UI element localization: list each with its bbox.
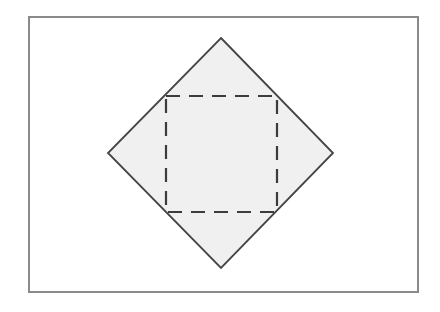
- geometry-diagram: [0, 0, 440, 312]
- figure-canvas: [0, 0, 440, 312]
